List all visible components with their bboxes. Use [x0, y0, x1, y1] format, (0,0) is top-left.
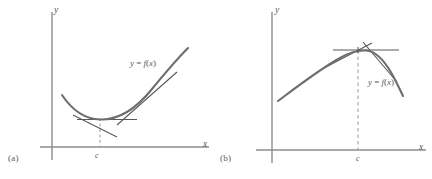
- panel-b-plot: [216, 0, 432, 179]
- panel-a-x-axis-label: x: [203, 139, 207, 149]
- panel-b-critical-point-label: c: [356, 153, 360, 163]
- panel-a-critical-point-label: c: [95, 150, 99, 160]
- panel-a: y x c y = f(x) (a): [0, 0, 216, 179]
- panel-a-curve-label-close: ): [153, 58, 156, 68]
- panel-b-y-axis-label: y: [275, 5, 279, 15]
- panel-a-y-axis-label: y: [54, 5, 58, 15]
- panel-b-caption: (b): [220, 153, 231, 163]
- panel-b-curve-label-close: ): [391, 77, 394, 87]
- panel-a-tangent-positive-slope: [117, 72, 177, 125]
- panel-b: y x c y = f(x) (b): [216, 0, 432, 179]
- panel-a-curve-label: y = f(x): [130, 58, 156, 68]
- panel-a-plot: [0, 0, 216, 179]
- panel-a-curve-label-eq: =: [134, 58, 144, 68]
- panel-b-curve-label-eq: =: [372, 77, 382, 87]
- panel-b-x-axis-label: x: [419, 142, 423, 152]
- panel-b-curve-label: y = f(x): [368, 77, 394, 87]
- panel-b-curve: [278, 50, 403, 101]
- panel-a-caption: (a): [8, 153, 19, 163]
- panel-a-curve: [62, 48, 188, 120]
- figure-container: y x c y = f(x) (a) y x c: [0, 0, 432, 179]
